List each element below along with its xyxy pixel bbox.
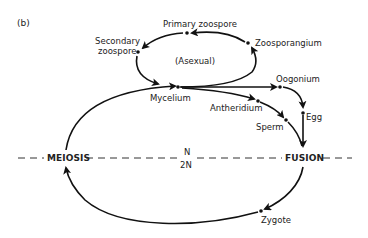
label-antheridium: Antheridium bbox=[210, 103, 262, 113]
arrow-mycelium-to-antheridium bbox=[182, 88, 254, 99]
arrow-secondary-to-mycelium bbox=[137, 56, 158, 84]
arrow-zygote-to-meiosis bbox=[66, 168, 258, 223]
label-primary-zoospore: Primary zoospore bbox=[163, 19, 237, 29]
label-secondary-zoospore-line1: Secondary bbox=[95, 36, 140, 46]
arrow-fusion-to-zygote bbox=[265, 167, 303, 209]
arrow-zoosporangium-to-primary bbox=[192, 32, 245, 42]
label-meiosis: MEIOSIS bbox=[47, 153, 90, 163]
label-zygote: Zygote bbox=[261, 215, 291, 225]
arrow-mycelium-to-zoosporangium bbox=[180, 48, 256, 87]
label-oogonium: Oogonium bbox=[276, 74, 320, 84]
label-haploid: N bbox=[184, 147, 190, 157]
label-diploid: 2N bbox=[180, 160, 192, 170]
arrow-sperm-to-fusion bbox=[288, 122, 302, 146]
label-secondary-zoospore-line2: zoospore bbox=[98, 46, 136, 56]
label-asexual: (Asexual) bbox=[175, 56, 215, 66]
panel-label: (b) bbox=[17, 18, 30, 28]
arrow-antheridium-to-sperm bbox=[260, 102, 283, 117]
arrow-primary-to-secondary bbox=[143, 33, 183, 48]
label-fusion: FUSION bbox=[285, 153, 324, 163]
arrow-oogonium-to-egg bbox=[283, 87, 303, 107]
label-mycelium: Mycelium bbox=[150, 93, 191, 103]
label-zoosporangium: Zoosporangium bbox=[255, 38, 322, 48]
label-sperm: Sperm bbox=[256, 122, 284, 132]
label-egg: Egg bbox=[306, 112, 322, 122]
